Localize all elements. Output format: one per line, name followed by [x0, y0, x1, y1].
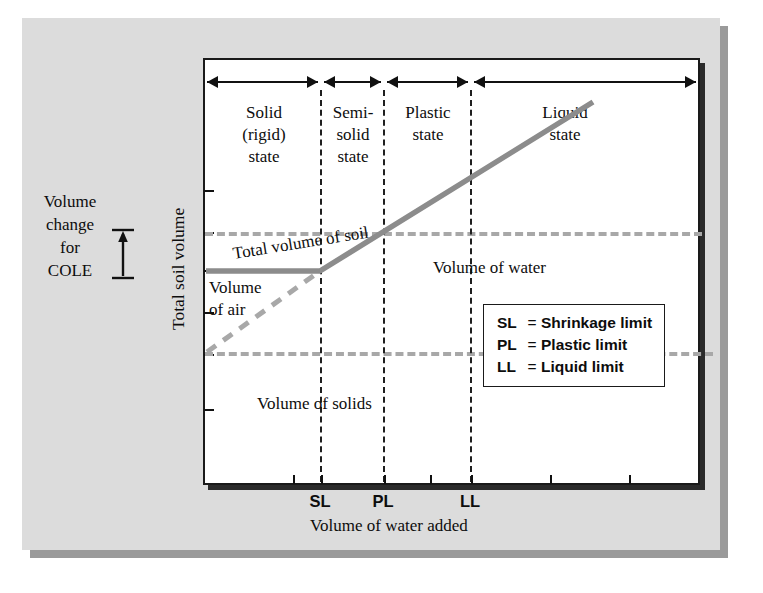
- legend-row: LL = Liquid limit: [497, 356, 652, 378]
- volume-of-air-line-1: Volume: [209, 277, 262, 299]
- legend-key-ll: LL: [497, 356, 523, 378]
- legend-equals: =: [523, 312, 541, 334]
- cole-line-2: change: [30, 213, 110, 236]
- y-axis-title: Total soil volume: [168, 208, 189, 330]
- label-volume-of-air: Volume of air: [209, 277, 262, 321]
- plot-area: Solid (rigid) state Semi- solid state Pl…: [203, 58, 700, 485]
- x-tick: [629, 475, 631, 484]
- legend-equals: =: [523, 334, 541, 356]
- legend-text-pl: Plastic limit: [541, 334, 627, 356]
- x-tick-label-sl: SL: [300, 492, 340, 511]
- x-tick-pl: [384, 475, 386, 484]
- legend-text-sl: Shrinkage limit: [541, 312, 652, 334]
- legend-row: SL = Shrinkage limit: [497, 312, 652, 334]
- x-tick-label-pl: PL: [363, 492, 403, 511]
- x-tick-sl: [321, 475, 323, 484]
- cole-annotation: Volume change for COLE: [30, 190, 110, 282]
- x-tick: [550, 475, 552, 484]
- legend-key-sl: SL: [497, 312, 523, 334]
- cole-line-3: for: [30, 236, 110, 259]
- legend-key-pl: PL: [497, 334, 523, 356]
- x-tick-label-ll: LL: [450, 492, 490, 511]
- cole-double-arrow-icon: [108, 226, 138, 282]
- legend-box: SL = Shrinkage limit PL = Plastic limit …: [483, 304, 665, 387]
- volume-of-air-line-2: of air: [209, 299, 262, 321]
- x-tick-ll: [471, 475, 473, 484]
- x-tick: [293, 475, 295, 484]
- legend-text-ll: Liquid limit: [541, 356, 624, 378]
- cole-line-4: COLE: [30, 259, 110, 282]
- label-volume-of-water: Volume of water: [433, 257, 546, 279]
- x-tick: [430, 475, 432, 484]
- x-axis-title: Volume of water added: [310, 516, 468, 536]
- legend-row: PL = Plastic limit: [497, 334, 652, 356]
- cole-line-1: Volume: [30, 190, 110, 213]
- legend-equals: =: [523, 356, 541, 378]
- label-volume-of-solids: Volume of solids: [257, 393, 372, 415]
